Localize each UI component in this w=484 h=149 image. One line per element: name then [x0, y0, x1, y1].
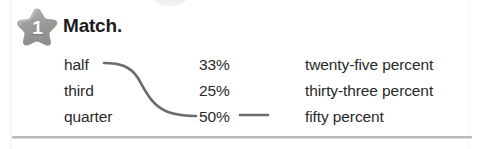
- percent-word-item-twenty-five[interactable]: twenty-five percent: [305, 52, 433, 78]
- percent-item-33[interactable]: 33%: [199, 52, 230, 78]
- bottom-divider-shadow: [12, 138, 472, 139]
- percent-item-25[interactable]: 25%: [199, 78, 230, 104]
- star-badge-icon: 1: [14, 6, 60, 50]
- fraction-item-quarter[interactable]: quarter: [64, 104, 112, 130]
- partial-circle-decoration: [152, 0, 188, 6]
- connector-half-to-fifty-percent: [104, 63, 196, 116]
- fraction-item-third[interactable]: third: [64, 78, 112, 104]
- percent-word-item-fifty[interactable]: fifty percent: [305, 104, 433, 130]
- page-edge-line-left: [10, 0, 11, 149]
- fraction-column: half third quarter: [64, 52, 112, 130]
- percent-column: 33% 25% 50%: [199, 52, 230, 130]
- worksheet-exercise-card: 1 Match. half third quarter 33% 25% 50% …: [0, 0, 484, 149]
- page-edge-line-right: [468, 0, 469, 149]
- exercise-instruction: Match.: [63, 15, 122, 37]
- exercise-number: 1: [14, 6, 60, 50]
- percent-word-column: twenty-five percent thirty-three percent…: [305, 52, 433, 130]
- percent-item-50[interactable]: 50%: [199, 104, 230, 130]
- percent-word-item-thirty-three[interactable]: thirty-three percent: [305, 78, 433, 104]
- fraction-item-half[interactable]: half: [64, 52, 112, 78]
